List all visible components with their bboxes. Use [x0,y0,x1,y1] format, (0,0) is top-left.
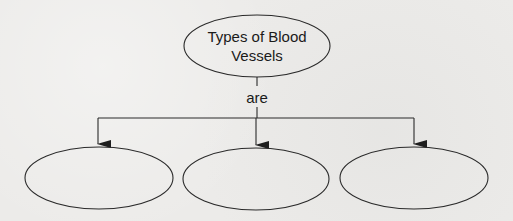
root-node-ellipse [184,15,330,77]
root-node-label-line2: Vessels [231,47,283,64]
child-node-1[interactable] [25,147,173,209]
child-node-2-ellipse[interactable] [183,148,329,210]
concept-map-diagram: Types of Blood Vessels are [0,0,513,221]
child-node-3[interactable] [340,147,488,209]
concept-map-canvas: Types of Blood Vessels are [0,0,513,221]
linking-word-label: are [246,89,268,106]
child-node-3-ellipse[interactable] [340,147,488,209]
root-node-label-line1: Types of Blood [207,28,306,45]
child-node-2[interactable] [183,148,329,210]
root-node: Types of Blood Vessels [184,15,330,77]
child-node-1-ellipse[interactable] [25,147,173,209]
